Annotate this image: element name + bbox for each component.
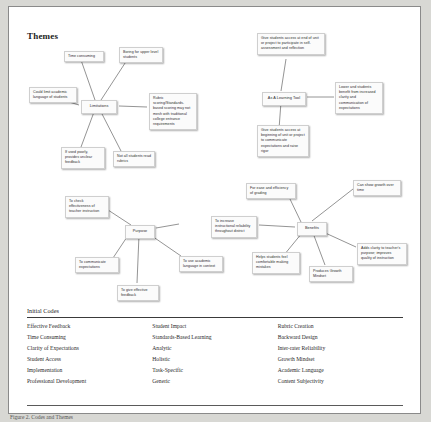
concept-map: Limitations Time consuming Boring for up… (9, 7, 420, 302)
node-communicate-expectations[interactable]: To communicate expectations (75, 257, 119, 273)
code-item: Student Impact (152, 322, 271, 333)
table-bottom-rule (27, 405, 403, 406)
node-comfortable-making-mistakes[interactable]: Helps students feel comfortable making m… (252, 252, 300, 274)
codes-column-1: Effective Feedback Time Consuming Clarit… (27, 322, 152, 388)
node-students-not-read-rubrics[interactable]: Not all students read rubrics (113, 151, 155, 167)
node-access-end-of-unit[interactable]: Give students access at end of unit or p… (257, 33, 325, 55)
code-item: Generic (152, 377, 271, 388)
code-item: Implementation (27, 366, 146, 377)
code-item: Standards-Based Learning (152, 333, 271, 344)
code-item: Academic Language (278, 366, 397, 377)
node-instructional-reliability[interactable]: To increase instructional reliability th… (211, 216, 257, 238)
codes-column-2: Student Impact Standards-Based Learning … (152, 322, 277, 388)
initial-codes-body: Effective Feedback Time Consuming Clarit… (27, 318, 403, 388)
node-limitations-center[interactable]: Limitations (81, 100, 117, 114)
node-give-effective-feedback[interactable]: To give effective feedback (117, 285, 159, 301)
code-item: Backward Design (278, 333, 397, 344)
code-item: Inter-rater Reliability (278, 344, 397, 355)
code-item: Effective Feedback (27, 322, 146, 333)
code-item: Time Consuming (27, 333, 146, 344)
node-limit-academic-language[interactable]: Could limit academic language of student… (29, 87, 77, 103)
node-learning-tool-center[interactable]: As A Learning Tool (262, 92, 306, 106)
node-academic-language-in-context[interactable]: To use academic language in context (179, 256, 223, 272)
code-item: Clarity of Expectations (27, 344, 146, 355)
node-ease-efficiency-grading[interactable]: For ease and efficiency of grading (246, 183, 296, 199)
node-purpose-center[interactable]: Purpose (125, 225, 155, 239)
node-show-growth-over-time[interactable]: Can show growth over time (353, 180, 401, 196)
node-produces-growth-mindset[interactable]: Produces Growth Mindset (309, 266, 353, 282)
node-increased-clarity-communication[interactable]: Lower and students benefit from increase… (335, 82, 383, 114)
node-benefits-center[interactable]: Benefits (297, 222, 327, 236)
node-adds-clarity-teacher-purpose[interactable]: Adds clarity to teacher's purpose; impro… (357, 243, 407, 265)
document-page: Themes (8, 6, 421, 414)
node-access-beginning-of-unit[interactable]: Give students access at beginning of uni… (257, 125, 309, 157)
code-item: Growth Mindset (278, 355, 397, 366)
code-item: Analytic (152, 344, 271, 355)
initial-codes-title: Initial Codes (27, 307, 403, 317)
figure-caption: Figure 2. Codes and Themes (10, 414, 73, 420)
node-check-teacher-effectiveness[interactable]: To check effectiveness of teacher instru… (65, 196, 109, 218)
code-item: Holistic (152, 355, 271, 366)
node-unclear-feedback[interactable]: If used poorly, provides unclear feedbac… (61, 147, 105, 169)
code-item: Student Access (27, 355, 146, 366)
code-item: Content Subjectivity (278, 377, 397, 388)
code-item: Task-Specific (152, 366, 271, 377)
initial-codes-table: Initial Codes Effective Feedback Time Co… (27, 307, 403, 388)
node-time-consuming[interactable]: Time consuming (64, 51, 104, 62)
node-rubric-scoring-mismatch[interactable]: Rubric scoring/Standards-based scoring m… (149, 93, 197, 130)
code-item: Rubric Creation (278, 322, 397, 333)
node-boring-upper-level[interactable]: Boring for upper level students (119, 47, 163, 63)
codes-column-3: Rubric Creation Backward Design Inter-ra… (278, 322, 403, 388)
code-item: Professional Development (27, 377, 146, 388)
